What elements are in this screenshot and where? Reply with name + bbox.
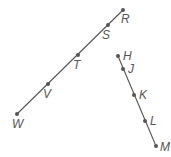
geometry-diagram: RSTVWHJKLM: [0, 0, 171, 157]
point-label-T: T: [73, 58, 82, 72]
line-RW: RSTVW: [12, 8, 130, 131]
point-label-H: H: [123, 49, 132, 63]
point-M: [154, 144, 158, 148]
point-T: [76, 53, 80, 57]
diagram-svg: RSTVWHJKLM: [0, 0, 171, 157]
line-HM: HJKLM: [116, 49, 170, 154]
point-J: [121, 67, 125, 71]
point-S: [106, 23, 110, 27]
point-label-R: R: [121, 12, 130, 26]
point-label-V: V: [43, 87, 52, 101]
point-label-K: K: [139, 88, 148, 102]
point-L: [143, 119, 147, 123]
point-label-W: W: [12, 117, 25, 131]
point-H: [116, 54, 120, 58]
point-label-M: M: [160, 140, 170, 154]
point-label-S: S: [102, 28, 110, 42]
point-K: [132, 93, 136, 97]
point-label-L: L: [150, 114, 157, 128]
point-label-J: J: [127, 62, 135, 76]
point-W: [15, 112, 19, 116]
point-V: [46, 82, 50, 86]
